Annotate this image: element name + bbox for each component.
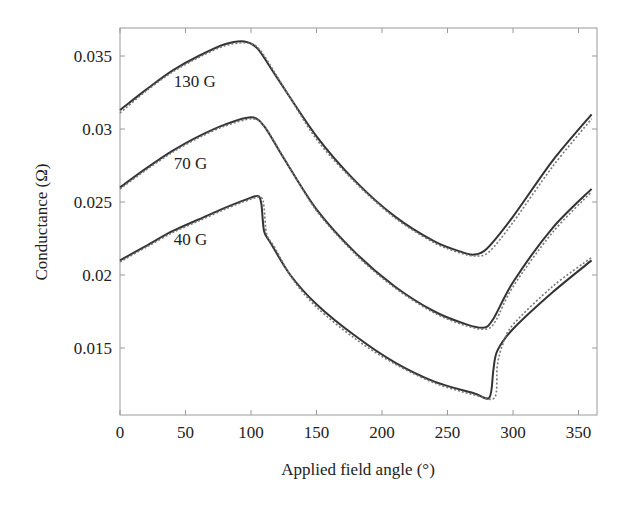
curve-40-g-simulated	[120, 197, 592, 399]
y-tick-label: 0.02	[82, 266, 112, 285]
y-axis-ticks: 0.0150.020.0250.030.035	[74, 47, 597, 358]
curves	[120, 41, 592, 399]
x-tick-label: 300	[500, 423, 526, 442]
x-tick-label: 350	[566, 423, 592, 442]
y-tick-label: 0.035	[74, 47, 112, 66]
x-tick-label: 50	[177, 423, 194, 442]
x-axis-title: Applied field angle (°)	[281, 460, 435, 479]
conductance-chart: 050100150200250300350 0.0150.020.0250.03…	[0, 0, 631, 506]
curve-label: 40 G	[174, 230, 208, 249]
x-tick-label: 100	[238, 423, 264, 442]
x-tick-label: 200	[369, 423, 395, 442]
x-tick-label: 0	[116, 423, 125, 442]
curve-label: 130 G	[174, 72, 216, 91]
curve-label: 70 G	[174, 154, 208, 173]
curve-40-g-measured	[120, 196, 592, 399]
y-axis-title: Conductance (Ω)	[32, 164, 51, 281]
y-tick-label: 0.015	[74, 339, 112, 358]
y-tick-label: 0.025	[74, 193, 112, 212]
x-tick-label: 150	[304, 423, 330, 442]
y-tick-label: 0.03	[82, 120, 112, 139]
x-tick-label: 250	[435, 423, 461, 442]
